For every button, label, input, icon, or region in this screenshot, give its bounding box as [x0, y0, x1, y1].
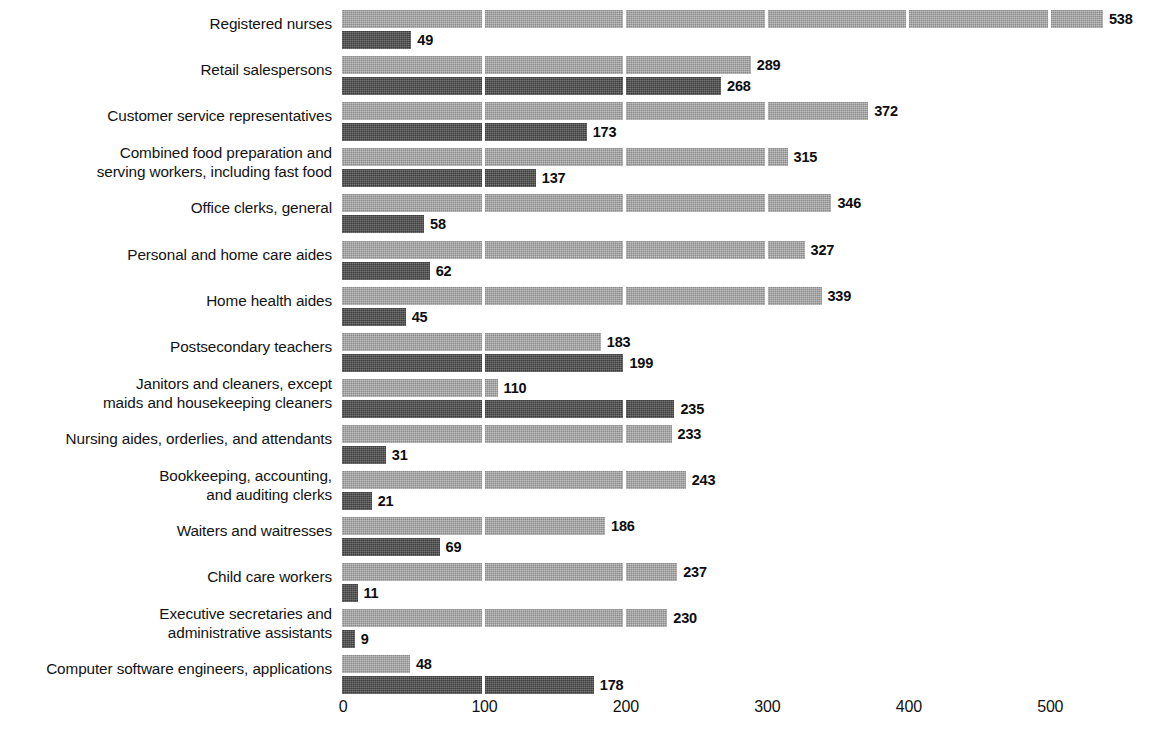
- light-bar-value: 230: [673, 609, 697, 627]
- gridline: [623, 56, 626, 74]
- gridline: [765, 241, 768, 259]
- x-tick-label: 100: [471, 698, 497, 716]
- category-label: Office clerks, general: [0, 198, 332, 217]
- dark-bar-value: 178: [600, 676, 624, 694]
- light-bar-value: 339: [828, 287, 852, 305]
- chart-row: Nursing aides, orderlies, and attendants…: [0, 415, 1151, 461]
- light-bar-value: 237: [683, 563, 707, 581]
- chart-row: Waiters and waitresses18669: [0, 507, 1151, 553]
- gridline: [482, 517, 485, 535]
- light-bar-value: 233: [678, 425, 702, 443]
- chart-row: Retail salespersons289268: [0, 46, 1151, 92]
- light-bar: [342, 517, 605, 535]
- light-bar-value: 243: [692, 471, 716, 489]
- category-label: Retail salespersons: [0, 60, 332, 79]
- x-tick-label: 400: [896, 698, 922, 716]
- chart-row: Combined food preparation and serving wo…: [0, 138, 1151, 184]
- gridline: [623, 148, 626, 166]
- gridline: [482, 102, 485, 120]
- category-label: Janitors and cleaners, except maids and …: [0, 374, 332, 412]
- category-label: Personal and home care aides: [0, 245, 332, 264]
- x-axis: 0100200300400500: [342, 698, 1132, 724]
- category-label: Waiters and waitresses: [0, 521, 332, 540]
- gridline: [482, 425, 485, 443]
- gridline: [765, 194, 768, 212]
- chart-row: Postsecondary teachers183199: [0, 323, 1151, 369]
- chart-row: Bookkeeping, accounting, and auditing cl…: [0, 461, 1151, 507]
- horizontal-bar-chart: Registered nurses53849Retail salesperson…: [0, 0, 1151, 741]
- light-bar: [342, 471, 686, 489]
- gridline: [765, 102, 768, 120]
- gridline: [482, 563, 485, 581]
- light-bar: [342, 655, 410, 673]
- chart-row: Customer service representatives372173: [0, 92, 1151, 138]
- light-bar-value: 183: [607, 333, 631, 351]
- light-bar-value: 186: [611, 517, 635, 535]
- chart-row: Registered nurses53849: [0, 0, 1151, 46]
- gridline: [906, 10, 909, 28]
- gridline: [623, 563, 626, 581]
- chart-row: Janitors and cleaners, except maids and …: [0, 369, 1151, 415]
- x-tick-label: 200: [613, 698, 639, 716]
- light-bar: [342, 10, 1103, 28]
- gridline: [482, 241, 485, 259]
- category-label: Nursing aides, orderlies, and attendants: [0, 429, 332, 448]
- light-bar-value: 538: [1109, 10, 1133, 28]
- light-bar-value: 327: [811, 241, 835, 259]
- light-bar: [342, 56, 751, 74]
- light-bar-value: 372: [874, 102, 898, 120]
- gridline: [765, 148, 768, 166]
- category-label: Combined food preparation and serving wo…: [0, 143, 332, 181]
- gridline: [623, 241, 626, 259]
- light-bar: [342, 102, 868, 120]
- gridline: [765, 287, 768, 305]
- light-bar-value: 110: [504, 379, 527, 397]
- gridline: [623, 194, 626, 212]
- gridline: [623, 471, 626, 489]
- dark-bar: [342, 676, 594, 694]
- gridline: [623, 609, 626, 627]
- chart-row: Child care workers23711: [0, 553, 1151, 599]
- gridline: [482, 194, 485, 212]
- light-bar-value: 346: [837, 194, 861, 212]
- light-bar: [342, 379, 498, 397]
- gridline: [482, 10, 485, 28]
- gridline: [482, 148, 485, 166]
- gridline: [482, 609, 485, 627]
- x-tick-label: 0: [339, 698, 348, 716]
- x-tick-label: 500: [1037, 698, 1063, 716]
- gridline: [482, 333, 485, 351]
- light-bar-value: 48: [416, 655, 432, 673]
- light-bar: [342, 333, 601, 351]
- light-bar: [342, 148, 788, 166]
- x-tick-label: 300: [754, 698, 780, 716]
- category-label: Customer service representatives: [0, 106, 332, 125]
- category-label: Bookkeeping, accounting, and auditing cl…: [0, 466, 332, 504]
- gridline: [482, 471, 485, 489]
- gridline: [623, 425, 626, 443]
- gridline: [623, 287, 626, 305]
- gridline: [623, 102, 626, 120]
- gridline: [623, 10, 626, 28]
- light-bar-value: 289: [757, 56, 781, 74]
- light-bar-value: 315: [794, 148, 818, 166]
- chart-row: Office clerks, general34658: [0, 184, 1151, 230]
- gridline: [1048, 10, 1051, 28]
- gridline: [482, 287, 485, 305]
- gridline: [482, 676, 485, 694]
- light-bar: [342, 425, 672, 443]
- light-bar: [342, 609, 667, 627]
- chart-row: Home health aides33945: [0, 277, 1151, 323]
- light-bar: [342, 194, 831, 212]
- category-label: Child care workers: [0, 567, 332, 586]
- light-bar: [342, 563, 677, 581]
- category-label: Postsecondary teachers: [0, 337, 332, 356]
- chart-row: Computer software engineers, application…: [0, 645, 1151, 691]
- category-label: Computer software engineers, application…: [0, 659, 332, 678]
- chart-row: Personal and home care aides32762: [0, 231, 1151, 277]
- category-label: Home health aides: [0, 291, 332, 310]
- gridline: [765, 10, 768, 28]
- gridline: [482, 56, 485, 74]
- light-bar: [342, 241, 805, 259]
- chart-row: Executive secretaries and administrative…: [0, 599, 1151, 645]
